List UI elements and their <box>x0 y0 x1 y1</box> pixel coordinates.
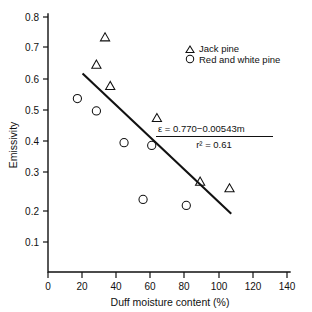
x-tick-label: 60 <box>144 281 156 292</box>
y-tick-label: 0.1 <box>25 237 39 248</box>
data-point <box>225 184 234 192</box>
data-point <box>139 195 147 203</box>
y-tick-label: 0.8 <box>25 12 39 23</box>
data-point <box>92 107 100 115</box>
legend-item-label: Jack pine <box>199 43 239 54</box>
x-tick-label: 140 <box>279 281 296 292</box>
data-point <box>152 114 161 122</box>
data-point <box>106 81 115 89</box>
y-tick-label: 0.2 <box>25 206 39 217</box>
y-tick-label: 0.7 <box>25 42 39 53</box>
x-tick-label: 0 <box>45 281 51 292</box>
legend-item-label: Red and white pine <box>199 54 280 65</box>
legend-triangle-icon <box>186 46 194 53</box>
x-tick-label: 80 <box>178 281 190 292</box>
x-tick-label: 40 <box>110 281 122 292</box>
x-tick-label: 120 <box>245 281 262 292</box>
data-point <box>148 141 156 149</box>
data-point <box>120 139 128 147</box>
x-tick-label: 100 <box>211 281 228 292</box>
x-tick-label: 20 <box>76 281 88 292</box>
data-point <box>100 33 109 41</box>
axis-lines <box>48 14 290 272</box>
data-point <box>182 201 190 209</box>
legend: Jack pine Red and white pine <box>186 43 280 65</box>
data-point <box>92 60 101 68</box>
y-tick-marks <box>43 17 48 242</box>
y-axis-title: Emissivity <box>7 121 19 168</box>
data-point <box>73 95 81 103</box>
r-squared-line: r² = 0.61 <box>196 139 232 150</box>
y-tick-label: 0.5 <box>25 105 39 116</box>
legend-circle-icon <box>186 55 193 62</box>
x-axis-title: Duff moisture content (%) <box>111 296 230 308</box>
y-tick-label: 0.3 <box>25 167 39 178</box>
y-tick-label: 0.6 <box>25 74 39 85</box>
y-tick-labels: 0.8 0.7 0.6 0.5 0.4 0.3 0.2 0.1 <box>25 12 39 248</box>
equation-line: ε = 0.770−0.00543m <box>158 123 245 134</box>
x-tick-labels: 0 20 40 60 80 100 120 140 <box>45 281 296 292</box>
emissivity-scatter-chart: 0.8 0.7 0.6 0.5 0.4 0.3 0.2 0.1 0 20 40 … <box>0 0 312 312</box>
equation-annotation: ε = 0.770−0.00543m r² = 0.61 <box>156 123 273 150</box>
x-tick-marks <box>48 272 287 278</box>
plot-area: 0.8 0.7 0.6 0.5 0.4 0.3 0.2 0.1 0 20 40 … <box>0 0 312 312</box>
y-tick-label: 0.4 <box>25 136 39 147</box>
